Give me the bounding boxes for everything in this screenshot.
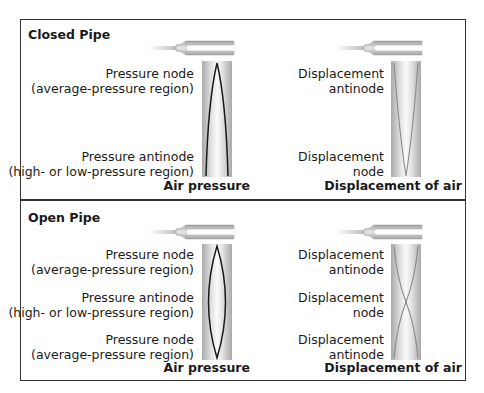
open-pressure-antinode-label: Pressure antinode (high- or low-pressure… [8, 290, 194, 320]
open-displacement-node-label: Displacement node [298, 290, 384, 320]
label-line: antinode [298, 262, 384, 277]
label-line: node [298, 305, 384, 320]
section-divider [20, 199, 466, 201]
closed-pressure-antinode-label: Pressure antinode (high- or low-pressure… [8, 149, 194, 179]
closed-pipe-title: Closed Pipe [28, 27, 110, 42]
label-line: Pressure node [31, 332, 194, 347]
closed-pressure-node-label: Pressure node (average-pressure region) [31, 66, 194, 96]
open-displacement-caption: Displacement of air [324, 360, 462, 375]
label-line: Pressure node [31, 66, 194, 81]
tuning-fork-icon [336, 224, 422, 240]
open-pressure-caption: Air pressure [164, 360, 251, 375]
closed-pressure-caption: Air pressure [164, 178, 251, 193]
label-line: Displacement [298, 332, 384, 347]
open-pipe-pressure-icon [202, 244, 232, 360]
closed-displacement-node-label: Displacement node [298, 149, 384, 179]
open-pipe-title: Open Pipe [28, 210, 100, 225]
label-line: Displacement [298, 66, 384, 81]
closed-pipe-pressure-icon [202, 61, 232, 177]
label-line: Displacement [298, 247, 384, 262]
label-line: (high- or low-pressure region) [8, 164, 194, 179]
label-line: (high- or low-pressure region) [8, 305, 194, 320]
open-displacement-antinode-top-label: Displacement antinode [298, 247, 384, 277]
label-line: Displacement [298, 290, 384, 305]
open-displacement-antinode-bottom-label: Displacement antinode [298, 332, 384, 362]
label-line: (average-pressure region) [31, 262, 194, 277]
open-pressure-node-bottom-label: Pressure node (average-pressure region) [31, 332, 194, 362]
label-line: Displacement [298, 149, 384, 164]
label-line: Pressure node [31, 247, 194, 262]
label-line: (average-pressure region) [31, 81, 194, 96]
label-line: Pressure antinode [8, 149, 194, 164]
label-line: antinode [298, 81, 384, 96]
tuning-fork-icon [148, 224, 234, 240]
tuning-fork-icon [336, 40, 422, 56]
tuning-fork-icon [148, 40, 234, 56]
open-pressure-node-top-label: Pressure node (average-pressure region) [31, 247, 194, 277]
open-pipe-displacement-icon [391, 244, 421, 360]
closed-displacement-caption: Displacement of air [324, 178, 462, 193]
label-line: Pressure antinode [8, 290, 194, 305]
closed-pipe-displacement-icon [391, 61, 421, 177]
closed-displacement-antinode-label: Displacement antinode [298, 66, 384, 96]
label-line: node [298, 164, 384, 179]
